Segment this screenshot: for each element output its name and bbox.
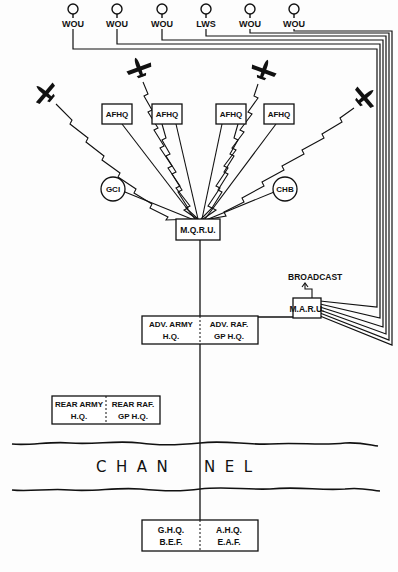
station-label: WOU (239, 19, 261, 29)
broadcast-arrow-icon (302, 283, 312, 298)
radio-links (56, 82, 354, 220)
eaf-label: E.A.F. (217, 537, 240, 547)
ghq-label: G.H.Q. (158, 525, 184, 535)
radar-stations: GCI CHB (101, 177, 297, 201)
ahq-label: A.H.Q. (216, 525, 242, 535)
aircraft (28, 53, 382, 113)
rear-army-label: REAR ARMY (55, 400, 104, 409)
rear-raf-label: REAR RAF. (112, 400, 155, 409)
adv-army-hq-label: H.Q. (163, 332, 179, 341)
chb-label: CHB (276, 185, 294, 194)
top-stations (68, 4, 299, 18)
afhq-boxes: AFHQ AFHQ AFHQ AFHQ (102, 104, 294, 124)
station-labels: WOU WOU WOU LWS WOU WOU (62, 19, 305, 29)
channel-label-left: C H A N (96, 458, 168, 476)
antenna-icon (245, 4, 255, 14)
diagram-svg: WOU WOU WOU LWS WOU WOU (0, 0, 398, 572)
afhq-label: AFHQ (268, 110, 291, 119)
rear-raf-hq-label: GP H.Q. (118, 412, 148, 421)
antenna-icon (112, 4, 122, 14)
signals-network-diagram: WOU WOU WOU LWS WOU WOU (0, 0, 398, 572)
channel-coastlines (12, 442, 380, 491)
adv-army-label: ADV. ARMY (149, 320, 194, 329)
adv-raf-hq-label: GP H.Q. (214, 332, 244, 341)
antenna-icon (157, 4, 167, 14)
station-label: LWS (196, 19, 216, 29)
station-label: WOU (151, 19, 173, 29)
bef-label: B.E.F. (159, 537, 182, 547)
maru-label: M.A.R.U. (290, 304, 325, 314)
aircraft-icon (249, 55, 280, 83)
channel-label-right: N E L (204, 458, 253, 476)
afhq-label: AFHQ (106, 110, 129, 119)
gci-label: GCI (106, 185, 120, 194)
station-label: WOU (106, 19, 128, 29)
broadcast-label: BROADCAST (288, 272, 343, 282)
afhq-label: AFHQ (220, 110, 243, 119)
antenna-icon (68, 4, 78, 14)
rear-army-hq-label: H.Q. (71, 412, 87, 421)
mqru-label: M.Q.R.U. (180, 225, 215, 235)
antenna-icon (201, 4, 211, 14)
aircraft-icon (123, 53, 154, 81)
aircraft-icon (28, 76, 60, 109)
antenna-icon (289, 4, 299, 14)
station-label: WOU (62, 19, 84, 29)
afhq-label: AFHQ (156, 110, 179, 119)
wire-links (120, 124, 279, 220)
station-label: WOU (283, 19, 305, 29)
adv-raf-label: ADV. RAF. (210, 320, 248, 329)
